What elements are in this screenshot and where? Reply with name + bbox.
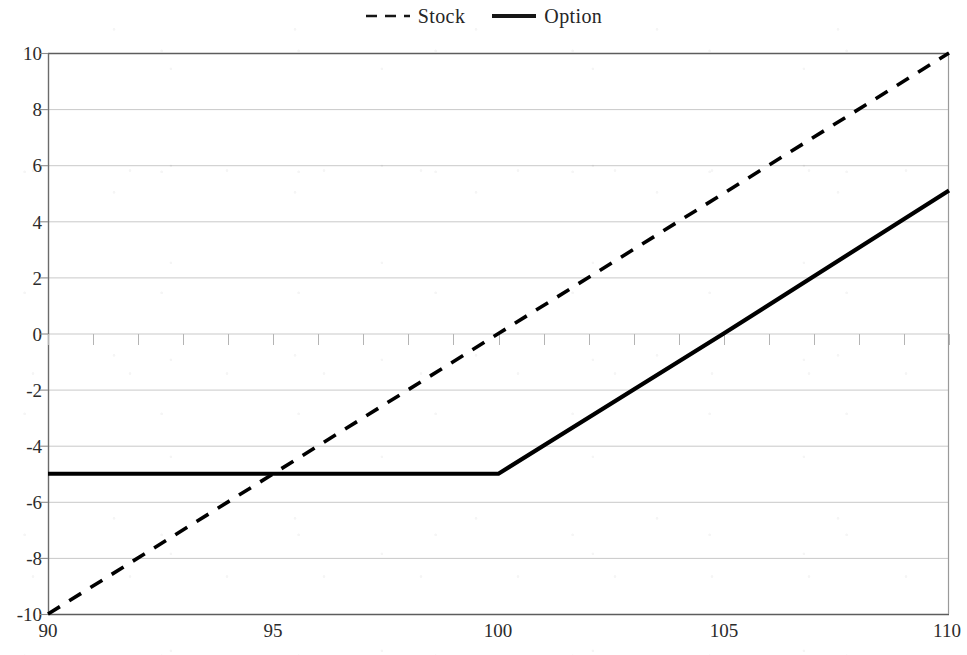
payoff-diagram-chart: Stock Option 10 8 6 4 2 0 -2 -4 -6 -8 -1… <box>0 0 967 655</box>
plot-area <box>0 0 967 655</box>
